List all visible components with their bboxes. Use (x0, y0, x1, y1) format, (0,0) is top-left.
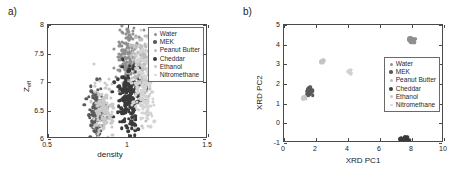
legend-label: Nitromethane (396, 101, 436, 109)
legend-item-mek[interactable]: MEK (152, 38, 200, 46)
legend-label: Ethanol (396, 93, 418, 101)
legend-label: Nitromethane (160, 71, 200, 79)
panel-a-yaxis-title-sub: eff (26, 81, 32, 87)
data-point (308, 92, 312, 96)
y-tick-label: 5 (261, 21, 280, 28)
legend-item-mek[interactable]: MEK (388, 68, 436, 76)
data-point (109, 96, 112, 99)
legend-marker-icon (388, 63, 395, 66)
data-point (133, 133, 137, 137)
legend-item-peanut-butter[interactable]: Peanut Butter (388, 76, 436, 84)
data-point (89, 100, 92, 103)
legend-item-water[interactable]: Water (152, 30, 200, 38)
y-tick-label: -1 (261, 139, 280, 146)
x-tick-label: 8 (409, 145, 413, 152)
axis-tick (284, 123, 287, 124)
data-point (112, 48, 115, 51)
legend-marker-icon (388, 95, 395, 98)
axis-tick (439, 25, 442, 26)
data-point (136, 127, 140, 131)
data-point (152, 103, 155, 106)
data-point (112, 107, 115, 110)
data-point (116, 111, 120, 115)
legend-label: Peanut Butter (160, 46, 200, 54)
legend-marker-icon (388, 79, 395, 82)
data-point (122, 119, 126, 123)
data-point (127, 110, 131, 114)
axis-tick (208, 134, 209, 137)
data-point (124, 85, 128, 89)
legend-item-cheddar[interactable]: Cheddar (388, 85, 436, 93)
data-point (96, 135, 99, 137)
data-point (110, 125, 113, 128)
legend-marker-icon (388, 70, 395, 74)
axis-tick (203, 139, 206, 140)
data-point (94, 84, 97, 87)
data-point (121, 25, 124, 27)
data-point (140, 38, 143, 41)
legend-marker-icon (152, 40, 159, 44)
legend-item-cheddar[interactable]: Cheddar (152, 55, 200, 63)
legend-item-ethanol[interactable]: Ethanol (152, 63, 200, 71)
legend-label: MEK (160, 38, 174, 46)
data-point (87, 95, 90, 98)
data-point (127, 70, 131, 74)
panel-b-label: b) (243, 6, 252, 17)
legend-label: Cheddar (160, 55, 185, 63)
y-tick-label: 6.5 (25, 106, 44, 113)
axis-tick (439, 123, 442, 124)
axis-tick (128, 134, 129, 137)
data-point (403, 135, 407, 139)
legend-item-nitromethane[interactable]: Nitromethane (152, 71, 200, 79)
x-tick-label: 4 (345, 145, 349, 152)
data-point (112, 67, 115, 70)
data-point (89, 85, 92, 88)
x-tick-label: 6 (377, 145, 381, 152)
data-point (111, 134, 114, 137)
axis-tick (380, 25, 381, 28)
legend-item-ethanol[interactable]: Ethanol (388, 93, 436, 101)
panel-a-yaxis-title-main: Z (22, 87, 31, 92)
legend-label: Cheddar (396, 85, 421, 93)
panel-b-legend: WaterMEKPeanut ButterCheddarEthanolNitro… (384, 57, 440, 112)
y-tick-label: 6 (25, 135, 44, 142)
axis-tick (316, 25, 317, 28)
data-point (120, 126, 124, 130)
data-point (112, 120, 115, 123)
legend-label: Water (396, 60, 413, 68)
panel-a-legend: WaterMEKPeanut ButterCheddarEthanolNitro… (148, 27, 204, 82)
x-tick-label: 2 (313, 145, 317, 152)
axis-tick (48, 111, 51, 112)
axis-tick (380, 138, 381, 141)
data-point (131, 37, 134, 40)
data-point (122, 109, 126, 113)
data-point (405, 140, 409, 141)
data-point (130, 115, 134, 119)
legend-marker-icon (152, 49, 159, 52)
axis-tick (439, 45, 442, 46)
data-point (106, 136, 109, 137)
axis-tick (48, 139, 51, 140)
data-point (142, 28, 145, 31)
axis-tick (284, 104, 287, 105)
axis-tick (284, 64, 287, 65)
figure-root: a) WaterMEKPeanut ButterCheddarEthanolNi… (0, 0, 469, 175)
legend-marker-icon (388, 104, 395, 107)
data-point (99, 87, 102, 90)
y-tick-label: 0 (261, 119, 280, 126)
data-point (116, 77, 120, 81)
data-point (124, 124, 128, 128)
axis-tick (444, 138, 445, 141)
data-point (103, 126, 106, 129)
axis-tick (284, 143, 287, 144)
data-point (120, 65, 124, 69)
legend-marker-icon (152, 57, 159, 61)
data-point (153, 120, 156, 123)
axis-tick (284, 25, 287, 26)
data-point (409, 40, 413, 44)
axis-tick (284, 84, 287, 85)
legend-item-nitromethane[interactable]: Nitromethane (388, 101, 436, 109)
legend-item-water[interactable]: Water (388, 60, 436, 68)
legend-item-peanut-butter[interactable]: Peanut Butter (152, 46, 200, 54)
panel-b: b) WaterMEKPeanut ButterCheddarEthanolNi… (235, 0, 469, 175)
